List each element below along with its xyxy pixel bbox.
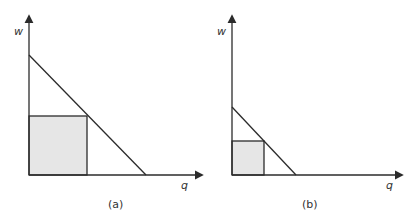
panel-label: (b)	[302, 198, 318, 211]
shaded-revenue-rect	[29, 116, 87, 175]
y-axis-label: w	[14, 25, 23, 38]
x-axis-label: q	[386, 179, 393, 192]
diagram-canvas: w q (a) w q (b)	[0, 0, 417, 219]
x-axis-label: q	[181, 179, 188, 192]
panel-a: w q (a)	[14, 16, 202, 211]
panel-label: (a)	[108, 198, 123, 211]
panel-b: w q (b)	[217, 16, 402, 211]
y-axis-label: w	[217, 25, 226, 38]
shaded-revenue-rect	[232, 141, 264, 175]
